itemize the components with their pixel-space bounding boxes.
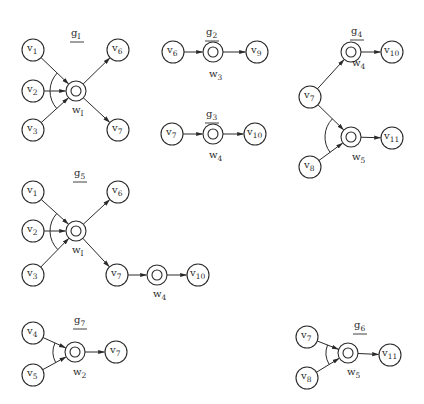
double-circle-icon bbox=[65, 342, 85, 362]
graph-title-subscript: 7 bbox=[80, 319, 85, 328]
and-connector-arc bbox=[325, 119, 332, 153]
junction-label-subscript: I bbox=[81, 109, 84, 118]
vertex-label-subscript: 7 bbox=[116, 349, 121, 358]
vertex-label-subscript: 5 bbox=[33, 372, 38, 381]
edge-v1-to-w1 bbox=[41, 58, 68, 84]
junction-node-w5: w5 bbox=[341, 127, 366, 165]
edge-w1-to-v6 bbox=[83, 200, 109, 224]
diagram-canvas: v1v2v3wIv6v7gIv6w3v9g2v7w4v10g3w4v10v7w5… bbox=[0, 0, 424, 404]
junction-node-w5: w5 bbox=[338, 343, 361, 380]
vertex-label-subscript: 7 bbox=[307, 334, 312, 343]
vertex-label-subscript: 6 bbox=[173, 49, 178, 58]
vertex-label-subscript: 1 bbox=[33, 47, 38, 56]
junction-label: w5 bbox=[352, 151, 366, 165]
vertex-node-v10: v10 bbox=[187, 264, 209, 286]
junction-label-subscript: I bbox=[81, 249, 84, 258]
vertex-label-subscript: 8 bbox=[307, 375, 312, 384]
vertex-node-v2: v2 bbox=[22, 220, 44, 242]
double-circle-icon bbox=[66, 81, 86, 101]
graph-title: g7 bbox=[74, 314, 85, 328]
vertex-node-v11: v11 bbox=[381, 127, 403, 149]
double-circle-icon bbox=[203, 124, 223, 144]
graph-title: g2 bbox=[206, 26, 217, 40]
junction-label: w4 bbox=[209, 149, 223, 163]
edge-w5-to-v11 bbox=[358, 353, 379, 354]
vertex-label-subscript: 11 bbox=[390, 135, 400, 144]
junction-node-w3: w3 bbox=[203, 42, 223, 82]
vertex-label-subscript: 10 bbox=[390, 49, 400, 58]
double-circle-icon bbox=[147, 265, 167, 285]
edge-w1-to-v6 bbox=[83, 58, 110, 84]
junction-label-subscript: 3 bbox=[218, 73, 223, 82]
junction-label-subscript: 5 bbox=[356, 371, 361, 380]
vertex-label-subscript: 6 bbox=[118, 189, 123, 198]
graph-g1: v1v2v3wIv6v7gI bbox=[22, 27, 129, 141]
graph-g4: w4v10v7w5v11v8g4 bbox=[299, 25, 403, 178]
edge-v7-to-w4 bbox=[317, 60, 344, 89]
and-connector-arc bbox=[53, 343, 56, 363]
vertex-node-v4: v4 bbox=[22, 322, 44, 344]
junction-node-w1: wI bbox=[66, 81, 86, 118]
vertex-label-subscript: 3 bbox=[33, 272, 38, 281]
double-circle-icon bbox=[341, 127, 361, 147]
edge-v7-to-w5 bbox=[317, 341, 338, 349]
vertex-label-subscript: 8 bbox=[310, 164, 315, 173]
double-circle-icon bbox=[203, 42, 223, 62]
vertex-node-v7: v7 bbox=[299, 86, 321, 108]
edge-v7-to-w5 bbox=[318, 105, 344, 130]
graph-diagram: v1v2v3wIv6v7gIv6w3v9g2v7w4v10g3w4v10v7w5… bbox=[0, 0, 424, 404]
vertex-label-subscript: 7 bbox=[118, 127, 123, 136]
vertex-node-v3: v3 bbox=[22, 264, 44, 286]
junction-label-subscript: 4 bbox=[361, 62, 366, 71]
vertex-node-v7: v7 bbox=[161, 123, 183, 145]
junction-label: w3 bbox=[209, 68, 223, 82]
graph-title-subscript: I bbox=[77, 32, 80, 41]
vertex-node-v1: v1 bbox=[22, 181, 44, 203]
vertex-node-v6: v6 bbox=[107, 39, 129, 61]
junction-label-subscript: 4 bbox=[218, 154, 223, 163]
and-connector-arc bbox=[50, 214, 58, 250]
edge-v3-to-w1 bbox=[41, 239, 69, 268]
junction-label: w4 bbox=[153, 288, 167, 302]
edge-v1-to-w1 bbox=[41, 199, 68, 224]
graph-g7: v4v5w2v7g7 bbox=[22, 314, 127, 386]
junction-label: w5 bbox=[347, 366, 361, 380]
vertex-node-v7: v7 bbox=[107, 119, 129, 141]
graph-title: g3 bbox=[206, 108, 217, 122]
vertex-node-v10: v10 bbox=[381, 41, 403, 63]
vertex-label-subscript: 10 bbox=[196, 272, 206, 281]
vertex-label-subscript: 9 bbox=[257, 49, 262, 58]
junction-node-w4: w4 bbox=[341, 42, 366, 71]
vertex-node-v11: v11 bbox=[379, 344, 401, 366]
junction-label-subscript: 5 bbox=[361, 156, 366, 165]
graph-title-subscript: 3 bbox=[212, 113, 217, 122]
graph-title: g4 bbox=[351, 25, 362, 39]
vertex-label-subscript: 4 bbox=[33, 330, 38, 339]
junction-label: wI bbox=[72, 244, 84, 258]
graph-g2: v6w3v9g2 bbox=[162, 26, 268, 82]
vertex-node-v8: v8 bbox=[296, 367, 318, 389]
double-circle-icon bbox=[66, 221, 86, 241]
junction-node-w4: w4 bbox=[203, 124, 223, 163]
edge-w1-to-v7 bbox=[83, 98, 109, 122]
edge-v8-to-w5 bbox=[319, 143, 343, 160]
vertex-node-v5: v5 bbox=[22, 364, 44, 386]
vertex-label-subscript: 10 bbox=[253, 131, 263, 140]
vertex-label-subscript: 2 bbox=[33, 88, 38, 97]
vertex-node-v1: v1 bbox=[22, 39, 44, 61]
vertex-label-subscript: 7 bbox=[172, 131, 177, 140]
graph-title: gI bbox=[71, 27, 80, 41]
vertex-label-subscript: 3 bbox=[33, 127, 38, 136]
vertex-node-v10: v10 bbox=[244, 123, 266, 145]
vertex-node-v9: v9 bbox=[246, 41, 268, 63]
vertex-label-subscript: 1 bbox=[33, 189, 38, 198]
vertex-label-subscript: 6 bbox=[118, 47, 123, 56]
and-connector-arc bbox=[326, 345, 329, 364]
junction-node-w1: wI bbox=[66, 221, 86, 258]
graph-title: g5 bbox=[74, 167, 85, 181]
graph-g5: v1v2v3wIv6v7w4v10g5 bbox=[22, 167, 209, 302]
junction-label: w2 bbox=[73, 366, 87, 380]
graph-g6: v7v8w5v11g6 bbox=[296, 319, 401, 389]
junction-label: w4 bbox=[352, 57, 366, 71]
vertex-node-v7: v7 bbox=[296, 326, 318, 348]
